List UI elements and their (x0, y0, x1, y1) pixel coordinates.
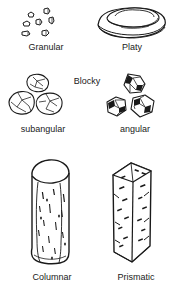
prismatic-figure (105, 158, 163, 268)
caption-granular: Granular (0, 42, 92, 53)
columnar-figure (22, 158, 82, 268)
caption-subangular: subangular (0, 124, 86, 135)
granule-1 (28, 12, 34, 17)
soil-structure-diagram: Granular Platy Blocky (0, 0, 173, 295)
angular-ped-top (124, 74, 145, 93)
subangular-ped-top (27, 74, 49, 91)
platy-figure (95, 4, 169, 42)
caption-platy: Platy (92, 42, 172, 53)
subangular-ped-left (9, 92, 34, 115)
granule-5 (49, 17, 54, 24)
granule-2 (44, 8, 50, 14)
caption-columnar: Columnar (0, 272, 104, 283)
granule-6 (22, 31, 30, 36)
angular-blocky-figure (104, 72, 168, 124)
caption-prismatic: Prismatic (100, 272, 172, 283)
granular-figure (18, 6, 74, 40)
granule-4 (36, 19, 42, 25)
granule-3 (23, 21, 30, 26)
subangular-blocky-figure (6, 72, 72, 124)
caption-angular: angular (100, 124, 170, 135)
granule-7 (42, 30, 49, 36)
subangular-ped-right (36, 93, 62, 114)
